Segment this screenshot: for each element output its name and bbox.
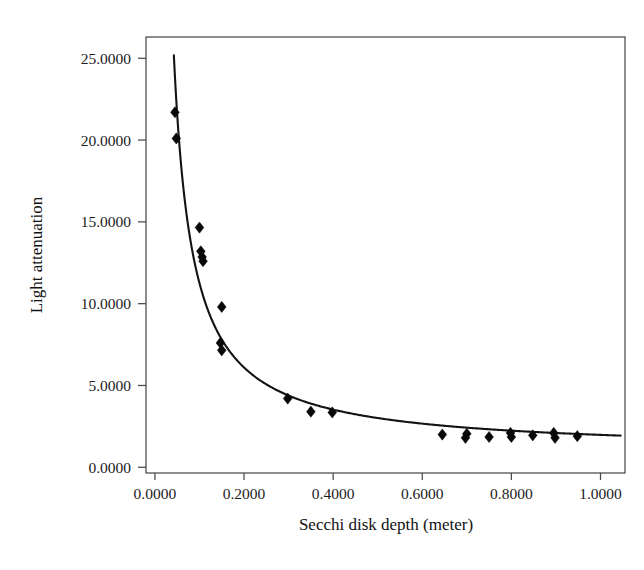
x-tick-label: 1.0000 [579,485,622,502]
y-tick-label: 25.0000 [81,50,132,67]
y-tick-label: 15.0000 [81,213,132,230]
y-tick-label: 10.0000 [81,295,132,312]
y-tick-label: 20.0000 [81,132,132,149]
x-tick-label: 0.2000 [223,485,266,502]
x-tick-label: 0.6000 [401,485,444,502]
x-axis-title: Secchi disk depth (meter) [299,515,473,534]
y-tick-label: 5.0000 [88,377,131,394]
y-tick-label: 0.0000 [88,459,131,476]
chart-figure: 0.00000.20000.40000.60000.80001.0000 0.0… [0,0,644,570]
x-tick-label: 0.4000 [312,485,355,502]
x-tick-label: 0.8000 [490,485,533,502]
y-axis-title: Light attenuation [27,196,46,313]
x-tick-label: 0.0000 [134,485,177,502]
scatter-plot: 0.00000.20000.40000.60000.80001.0000 0.0… [0,0,644,570]
